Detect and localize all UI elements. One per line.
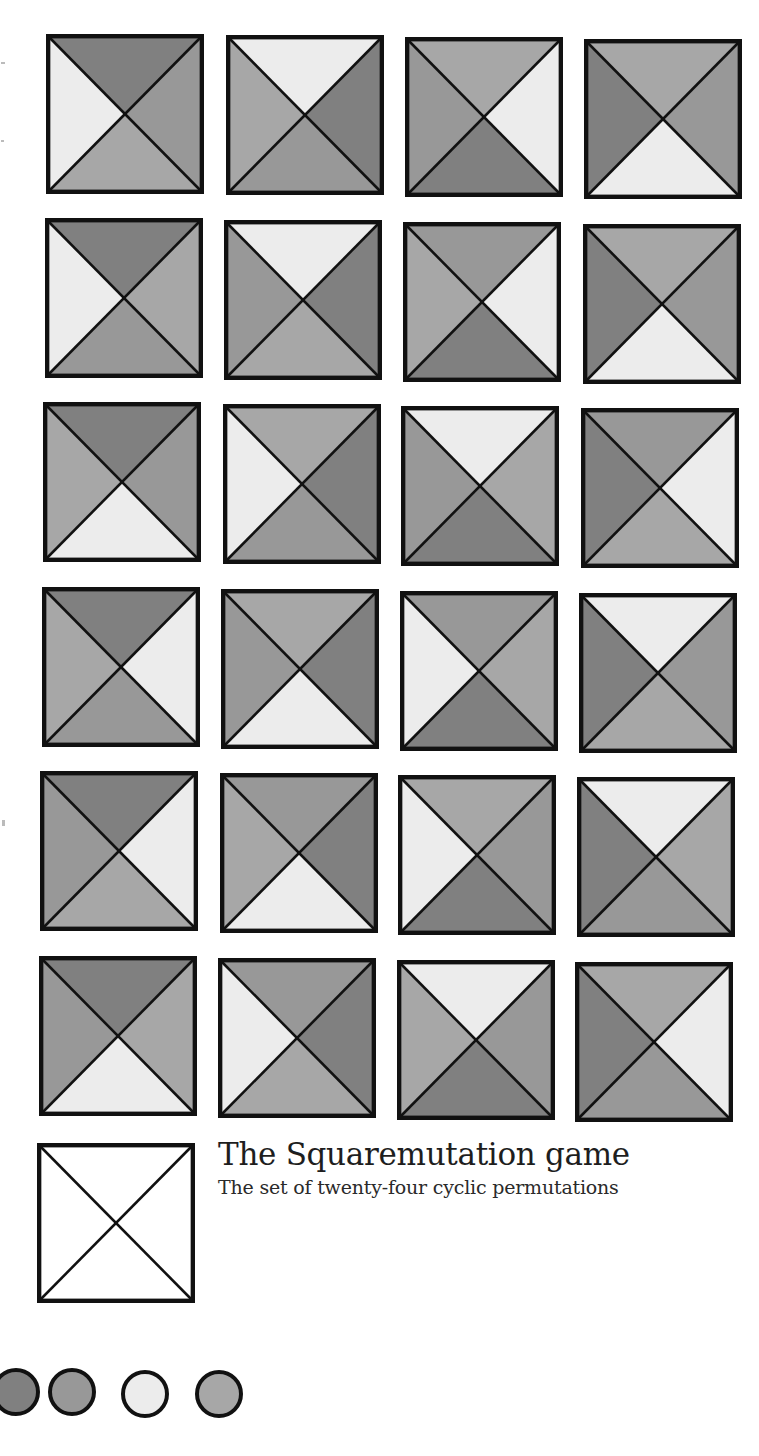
permutation-tile [577, 777, 735, 937]
permutation-tile [583, 224, 741, 384]
game-title: The Squaremutation game [218, 1135, 630, 1173]
permutation-tile [575, 962, 733, 1122]
permutation-tile [43, 402, 201, 562]
permutation-tile [405, 37, 563, 197]
permutation-tile [400, 591, 558, 751]
permutation-tile [226, 35, 384, 195]
blank-tile [37, 1143, 195, 1303]
permutation-tile [223, 404, 381, 564]
permutation-tile [42, 587, 200, 747]
permutation-tile [45, 218, 203, 378]
permutation-tile [403, 222, 561, 382]
permutation-tile [581, 408, 739, 568]
permutation-tile [579, 593, 737, 753]
scan-artifact [2, 820, 5, 826]
game-subtitle: The set of twenty-four cyclic permutatio… [218, 1175, 630, 1199]
permutation-tile [401, 406, 559, 566]
permutation-tile [40, 771, 198, 931]
permutation-tile [218, 958, 376, 1118]
permutation-tile [584, 39, 742, 199]
permutation-tile [221, 589, 379, 749]
permutation-tile [224, 220, 382, 380]
permutation-tile [46, 34, 204, 194]
scan-artifact [1, 62, 5, 64]
permutation-tile [397, 960, 555, 1120]
color-swatch [48, 1368, 96, 1416]
permutation-tile [220, 773, 378, 933]
title-block: The Squaremutation game The set of twent… [218, 1135, 630, 1199]
permutation-tile [39, 956, 197, 1116]
color-swatch [121, 1370, 169, 1418]
color-swatch [195, 1370, 243, 1418]
color-swatch [0, 1368, 40, 1416]
permutation-tile [398, 775, 556, 935]
scan-artifact [1, 140, 4, 142]
